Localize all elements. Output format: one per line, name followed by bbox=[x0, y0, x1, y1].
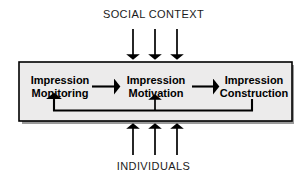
node-monitoring-line2: Monitoring bbox=[22, 87, 98, 100]
node-construction-line2: Construction bbox=[212, 87, 296, 100]
node-impression-monitoring: Impression Monitoring bbox=[22, 74, 98, 99]
node-impression-construction: Impression Construction bbox=[212, 74, 296, 99]
node-monitoring-line1: Impression bbox=[22, 74, 98, 87]
individuals-input-arrows bbox=[133, 126, 177, 155]
node-motivation-line2: Motivation bbox=[118, 87, 194, 100]
diagram-canvas: SOCIAL CONTEXT Impr bbox=[0, 0, 307, 185]
node-motivation-line1: Impression bbox=[118, 74, 194, 87]
individuals-label: INDIVIDUALS bbox=[0, 160, 307, 172]
node-impression-motivation: Impression Motivation bbox=[118, 74, 194, 99]
social-context-input-arrows bbox=[133, 29, 177, 57]
node-construction-line1: Impression bbox=[212, 74, 296, 87]
